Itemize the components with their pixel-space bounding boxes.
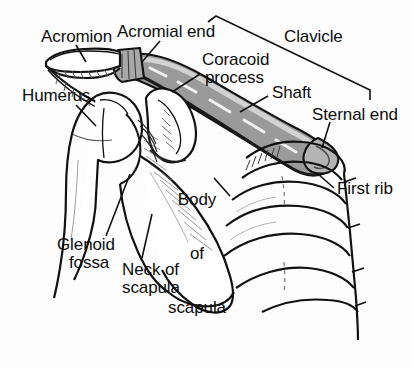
sternum-edge (344, 174, 358, 340)
label-humerus: Humerus (22, 87, 90, 105)
leader-line-neck-of-scapula (142, 214, 152, 258)
label-acromial-end: Acromial end (117, 23, 215, 41)
label-neck-of-scapula-line-1: Neck of (122, 261, 179, 279)
label-clavicle: Clavicle (284, 28, 343, 46)
second-rib (232, 182, 346, 204)
leader-line-glenoid-fossa (106, 174, 130, 236)
label-body-of-scapula-line-1: Body (161, 191, 233, 209)
label-body-of-scapula: Body of scapula (161, 155, 233, 353)
label-glenoid-line-2: fossa (69, 254, 109, 272)
label-sternal-end: Sternal end (312, 106, 398, 124)
label-glenoid-line-1: Glenoid (57, 236, 115, 254)
label-coracoid-line-1: Coracoid (202, 51, 269, 69)
fourth-rib (224, 234, 350, 256)
label-shaft: Shaft (272, 84, 311, 102)
third-rib (226, 206, 348, 228)
label-body-of-scapula-line-3: scapula (161, 299, 233, 317)
label-coracoid-line-2: process (205, 69, 264, 87)
label-first-rib: First rib (337, 180, 393, 198)
humerus-shaft-shading (71, 160, 78, 240)
costal-cartilage-dashed-lower (284, 262, 285, 294)
fifth-rib (236, 268, 354, 288)
label-acromion: Acromion (41, 28, 112, 46)
anatomy-figure: Acromion Acromial end Clavicle Coracoid … (0, 0, 412, 368)
label-neck-of-scapula-line-2: scapula (122, 279, 180, 297)
sixth-rib (262, 300, 358, 313)
